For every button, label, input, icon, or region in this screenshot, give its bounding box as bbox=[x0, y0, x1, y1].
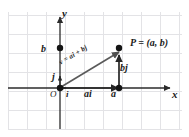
x-tick-label-a: a bbox=[111, 89, 116, 99]
point-p bbox=[116, 45, 122, 51]
vector-components-figure: y x b j O i ai a bj P = (a, b) v = ai + … bbox=[0, 0, 189, 137]
component-bj-label: bj bbox=[120, 63, 128, 73]
component-ai-label: ai bbox=[84, 89, 92, 99]
unit-vector-j-label: j bbox=[52, 72, 55, 82]
origin-label: O bbox=[50, 90, 57, 99]
point-a bbox=[116, 85, 122, 91]
unit-vector-i-label: i bbox=[66, 90, 69, 99]
plot-layer bbox=[0, 0, 189, 137]
point-p-label: P = (a, b) bbox=[130, 38, 168, 48]
y-axis-label: y bbox=[62, 8, 67, 19]
point-origin bbox=[57, 85, 63, 91]
point-b bbox=[57, 45, 63, 51]
x-axis-label: x bbox=[172, 89, 178, 100]
y-tick-label-b: b bbox=[41, 44, 46, 54]
